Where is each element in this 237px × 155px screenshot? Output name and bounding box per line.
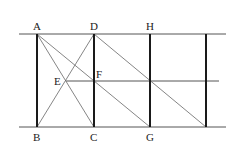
label-A: A xyxy=(33,20,41,32)
label-E: E xyxy=(54,75,61,87)
label-C: C xyxy=(90,131,97,143)
label-D: D xyxy=(90,20,98,32)
label-F: F xyxy=(96,68,102,80)
label-B: B xyxy=(33,131,40,143)
label-H: H xyxy=(146,20,154,32)
geometry-diagram: A D H E F B C G xyxy=(0,0,237,155)
label-G: G xyxy=(146,131,154,143)
